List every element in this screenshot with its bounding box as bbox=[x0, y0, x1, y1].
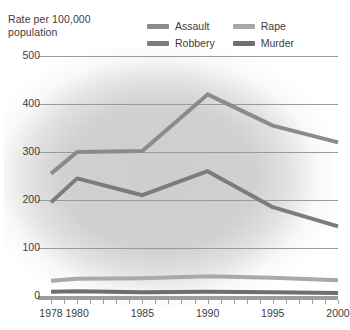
x-tick-1990 bbox=[208, 300, 209, 304]
x-tick-2000 bbox=[338, 300, 339, 304]
legend-item-assault[interactable]: Assault bbox=[147, 20, 215, 32]
y-tick-label-500: 500 bbox=[22, 49, 40, 61]
x-tick-1999 bbox=[325, 300, 326, 304]
x-tick-label-1985: 1985 bbox=[131, 307, 154, 319]
series-lines bbox=[38, 56, 338, 296]
x-tick-1998 bbox=[312, 300, 313, 304]
x-tick-1983 bbox=[116, 300, 117, 304]
series-line-murder bbox=[51, 291, 338, 293]
y-axis-title: Rate per 100,000 population bbox=[8, 13, 91, 38]
y-tick-label-100: 100 bbox=[22, 241, 40, 253]
x-tick-label-2000: 2000 bbox=[326, 307, 349, 319]
legend-swatch-assault bbox=[147, 24, 169, 29]
legend-swatch-murder bbox=[233, 41, 255, 46]
series-line-assault bbox=[51, 94, 338, 173]
x-tick-1991 bbox=[221, 300, 222, 304]
x-tick-1985 bbox=[142, 300, 143, 304]
x-tick-1980 bbox=[77, 300, 78, 304]
x-tick-1995 bbox=[273, 300, 274, 304]
x-tick-1989 bbox=[195, 300, 196, 304]
x-tick-1996 bbox=[286, 300, 287, 304]
y-tick-label-0: 0 bbox=[34, 289, 40, 301]
legend-swatch-robbery bbox=[147, 41, 169, 46]
legend-item-robbery[interactable]: Robbery bbox=[147, 37, 215, 49]
y-tick-label-300: 300 bbox=[22, 145, 40, 157]
x-tick-1988 bbox=[181, 300, 182, 304]
legend-label-robbery: Robbery bbox=[175, 37, 215, 49]
x-axis-line bbox=[38, 296, 338, 300]
legend-swatch-rape bbox=[233, 24, 255, 29]
x-tick-1981 bbox=[90, 300, 91, 304]
legend-label-murder: Murder bbox=[261, 37, 294, 49]
x-tick-1978 bbox=[51, 300, 52, 304]
x-tick-1994 bbox=[260, 300, 261, 304]
x-tick-1993 bbox=[247, 300, 248, 304]
series-line-robbery bbox=[51, 171, 338, 226]
legend-label-assault: Assault bbox=[175, 20, 209, 32]
x-tick-label-1978: 1978 bbox=[39, 307, 62, 319]
series-line-rape bbox=[51, 276, 338, 280]
plot-area bbox=[38, 56, 338, 296]
legend-item-rape[interactable]: Rape bbox=[233, 20, 294, 32]
y-tick-label-400: 400 bbox=[22, 97, 40, 109]
y-tick-label-200: 200 bbox=[22, 193, 40, 205]
legend-label-rape: Rape bbox=[261, 20, 286, 32]
x-tick-1984 bbox=[129, 300, 130, 304]
legend-item-murder[interactable]: Murder bbox=[233, 37, 294, 49]
x-tick-1997 bbox=[299, 300, 300, 304]
chart-legend: Assault Rape Robbery Murder bbox=[147, 20, 294, 49]
x-tick-label-1995: 1995 bbox=[261, 307, 284, 319]
x-tick-1987 bbox=[168, 300, 169, 304]
x-tick-1982 bbox=[103, 300, 104, 304]
x-tick-1986 bbox=[155, 300, 156, 304]
x-tick-1992 bbox=[234, 300, 235, 304]
x-tick-label-1980: 1980 bbox=[65, 307, 88, 319]
x-tick-1979 bbox=[64, 300, 65, 304]
x-tick-label-1990: 1990 bbox=[196, 307, 219, 319]
